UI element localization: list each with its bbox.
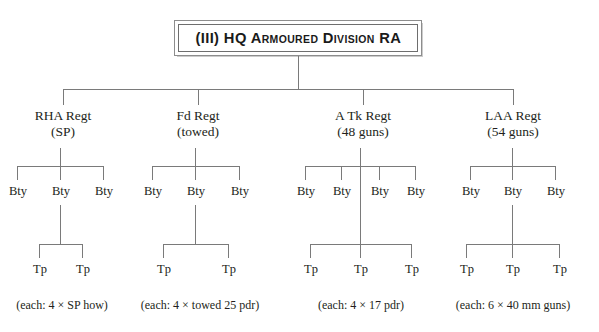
root-node-inner-border: (III) HQ Armoured Division RA bbox=[178, 24, 418, 52]
bty-node: Bty bbox=[462, 184, 480, 199]
fd-stem-to-tp bbox=[195, 205, 196, 244]
fd-tp-drop-2 bbox=[228, 244, 229, 258]
branch-qualifier-laa: (54 guns) bbox=[485, 124, 541, 140]
laa-bty-drop-3 bbox=[555, 166, 556, 180]
root-trunk-line bbox=[298, 56, 299, 89]
org-chart: (III) HQ Armoured Division RA RHA Regt (… bbox=[0, 0, 599, 332]
bty-node: Bty bbox=[9, 184, 27, 199]
tp-node: Tp bbox=[506, 262, 520, 277]
rha-tp-drop-2 bbox=[82, 244, 83, 258]
branch-drop-laa bbox=[513, 89, 514, 105]
laa-stem-to-tp bbox=[512, 205, 513, 244]
atk-bty-drop-1 bbox=[305, 166, 306, 180]
atk-bty-drop-3 bbox=[379, 166, 380, 180]
branch-label-laa: LAA Regt (54 guns) bbox=[485, 108, 541, 140]
branch-name-rha: RHA Regt bbox=[35, 108, 92, 124]
branch-caption-atk: (each: 4 × 17 pdr) bbox=[318, 298, 404, 313]
branch-name-atk: A Tk Regt bbox=[335, 108, 391, 124]
laa-stem-to-bty bbox=[512, 148, 513, 166]
laa-bty-drop-1 bbox=[470, 166, 471, 180]
atk-tp-drop-3 bbox=[411, 244, 412, 258]
branch-qualifier-fd: (towed) bbox=[176, 124, 219, 140]
atk-stem-through bbox=[360, 148, 361, 244]
bty-node: Bty bbox=[187, 184, 205, 199]
laa-tp-drop-1 bbox=[466, 244, 467, 258]
tp-node: Tp bbox=[354, 262, 368, 277]
level1-bus-line bbox=[63, 89, 513, 90]
branch-drop-atk bbox=[363, 89, 364, 105]
branch-drop-fd bbox=[198, 89, 199, 105]
branch-drop-rha bbox=[63, 89, 64, 105]
rha-tp-bus bbox=[39, 244, 82, 245]
tp-node: Tp bbox=[33, 262, 47, 277]
rha-bty-drop-3 bbox=[103, 166, 104, 180]
atk-bty-drop-2 bbox=[341, 166, 342, 180]
bty-node: Bty bbox=[333, 184, 351, 199]
tp-node: Tp bbox=[553, 262, 567, 277]
bty-node: Bty bbox=[371, 184, 389, 199]
branch-name-fd: Fd Regt bbox=[176, 108, 219, 124]
fd-tp-bus bbox=[163, 244, 228, 245]
tp-node: Tp bbox=[304, 262, 318, 277]
tp-node: Tp bbox=[222, 262, 236, 277]
bty-node: Bty bbox=[144, 184, 162, 199]
bty-node: Bty bbox=[504, 184, 522, 199]
branch-name-laa: LAA Regt bbox=[485, 108, 541, 124]
rha-tp-drop-1 bbox=[39, 244, 40, 258]
branch-label-fd: Fd Regt (towed) bbox=[176, 108, 219, 140]
branch-label-atk: A Tk Regt (48 guns) bbox=[335, 108, 391, 140]
bty-node: Bty bbox=[547, 184, 565, 199]
rha-bty-drop-1 bbox=[17, 166, 18, 180]
branch-caption-rha: (each: 4 × SP how) bbox=[16, 298, 108, 313]
laa-tp-drop-2 bbox=[512, 244, 513, 258]
rha-stem-to-bty bbox=[60, 148, 61, 166]
root-node-box: (III) HQ Armoured Division RA bbox=[174, 20, 422, 56]
laa-bty-drop-2 bbox=[512, 166, 513, 180]
branch-qualifier-rha: (SP) bbox=[35, 124, 92, 140]
page-title: (III) HQ Armoured Division RA bbox=[195, 29, 401, 47]
rha-bty-drop-2 bbox=[60, 166, 61, 180]
branch-label-rha: RHA Regt (SP) bbox=[35, 108, 92, 140]
fd-bty-drop-1 bbox=[152, 166, 153, 180]
bty-node: Bty bbox=[407, 184, 425, 199]
branch-caption-laa: (each: 6 × 40 mm guns) bbox=[456, 298, 570, 313]
bty-node: Bty bbox=[52, 184, 70, 199]
branch-qualifier-atk: (48 guns) bbox=[335, 124, 391, 140]
tp-node: Tp bbox=[405, 262, 419, 277]
fd-tp-drop-1 bbox=[163, 244, 164, 258]
tp-node: Tp bbox=[76, 262, 90, 277]
rha-stem-to-tp bbox=[60, 205, 61, 244]
bty-node: Bty bbox=[231, 184, 249, 199]
tp-node: Tp bbox=[157, 262, 171, 277]
laa-tp-drop-3 bbox=[559, 244, 560, 258]
atk-tp-drop-2 bbox=[360, 244, 361, 258]
fd-bty-drop-3 bbox=[239, 166, 240, 180]
branch-caption-fd: (each: 4 × towed 25 pdr) bbox=[141, 298, 259, 313]
fd-bty-drop-2 bbox=[195, 166, 196, 180]
bty-node: Bty bbox=[95, 184, 113, 199]
atk-tp-drop-1 bbox=[310, 244, 311, 258]
bty-node: Bty bbox=[297, 184, 315, 199]
atk-bty-drop-4 bbox=[415, 166, 416, 180]
tp-node: Tp bbox=[460, 262, 474, 277]
fd-stem-to-bty bbox=[195, 148, 196, 166]
atk-bty-bus bbox=[305, 166, 415, 167]
